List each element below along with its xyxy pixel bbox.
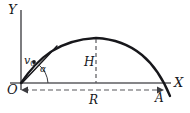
- projectile-motion-figure: Y X O A H R α v0: [0, 0, 190, 113]
- y-axis-label: Y: [8, 3, 17, 16]
- x-axis-label: X: [174, 76, 183, 89]
- landing-point-label: A: [155, 92, 164, 104]
- range-arrowhead-left: [21, 87, 28, 94]
- launch-angle-label: α: [40, 65, 46, 74]
- max-height-label: H: [84, 56, 94, 68]
- range-label: R: [89, 94, 98, 106]
- origin-label: O: [7, 83, 18, 96]
- initial-velocity-label: v0: [24, 55, 35, 68]
- initial-velocity-subscript: 0: [30, 60, 34, 68]
